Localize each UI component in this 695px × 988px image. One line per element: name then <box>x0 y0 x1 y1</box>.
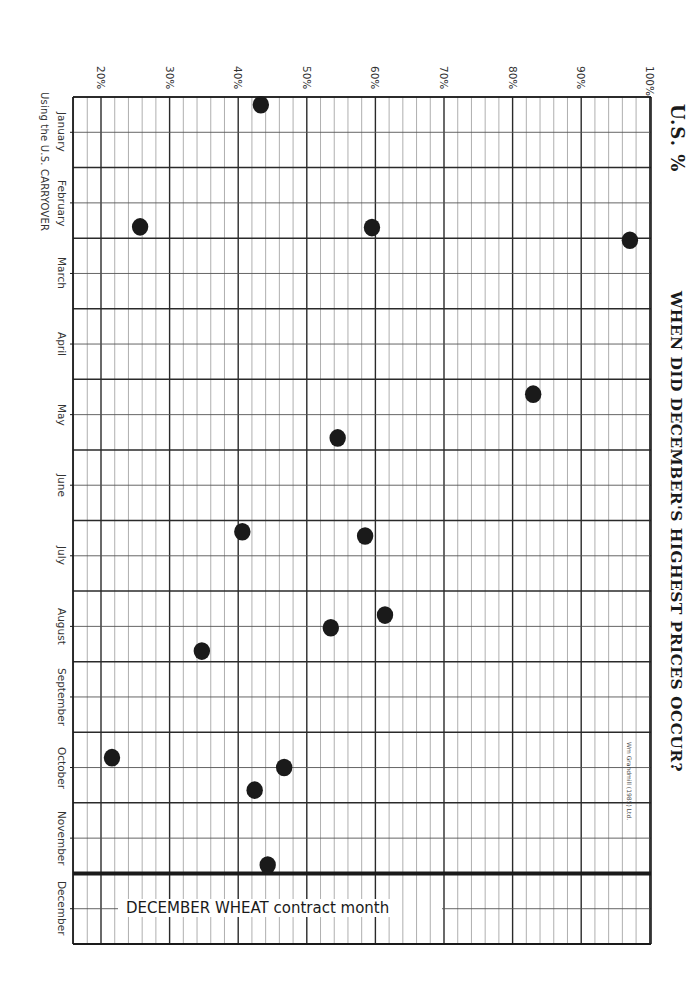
y-tick-label: 20% <box>95 66 107 89</box>
credit-note: Wm Grandmill (1985) Ltd. <box>626 742 633 820</box>
x-axis-subtitle: Using the U.S. CARRYOVER <box>39 92 50 231</box>
y-tick-label: 50% <box>301 66 313 89</box>
data-point <box>253 96 269 114</box>
x-tick-label: February <box>56 180 68 227</box>
data-point <box>246 781 262 799</box>
y-tick-label: 60% <box>369 66 381 89</box>
data-point <box>357 527 373 545</box>
x-tick-label: November <box>56 811 68 866</box>
x-tick-label: September <box>56 668 68 726</box>
data-point <box>329 429 345 447</box>
data-point <box>323 619 339 637</box>
data-point <box>259 856 275 874</box>
y-tick-label: 30% <box>164 66 176 89</box>
data-point <box>276 759 292 777</box>
x-tick-label: March <box>56 257 68 289</box>
data-point <box>132 218 148 236</box>
data-point <box>622 231 638 249</box>
y-tick-label: 70% <box>438 66 450 89</box>
data-point <box>104 749 120 767</box>
data-point <box>364 219 380 237</box>
contract-month-label: DECEMBER WHEAT contract month <box>122 899 393 917</box>
axis-title: U.S. % <box>667 104 688 172</box>
y-tick-label: 90% <box>575 66 587 89</box>
x-tick-label: December <box>56 881 68 935</box>
data-point <box>525 385 541 403</box>
x-tick-label: October <box>56 747 68 789</box>
x-tick-label: January <box>56 112 68 152</box>
x-tick-label: July <box>56 546 68 565</box>
chart-grid <box>0 0 695 988</box>
x-tick-label: May <box>56 404 68 426</box>
y-tick-label: 100% <box>644 66 656 96</box>
chart-title: WHEN DID DECEMBER'S HIGHEST PRICES OCCUR… <box>667 291 686 772</box>
x-tick-label: June <box>56 474 68 497</box>
data-point <box>234 523 250 541</box>
chart-page: U.S. % WHEN DID DECEMBER'S HIGHEST PRICE… <box>0 0 695 988</box>
x-tick-label: August <box>56 608 68 645</box>
data-point <box>377 606 393 624</box>
x-tick-label: April <box>56 332 68 356</box>
data-point <box>194 642 210 660</box>
y-tick-label: 80% <box>507 66 519 89</box>
y-tick-label: 40% <box>232 66 244 89</box>
